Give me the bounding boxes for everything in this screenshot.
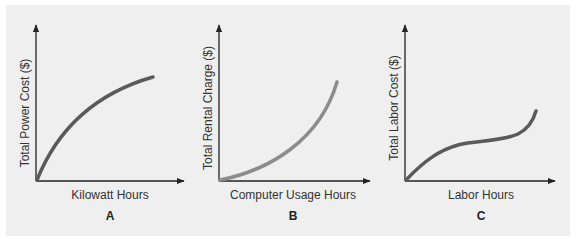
x-axis-label: Computer Usage Hours — [230, 188, 356, 202]
y-axis-label: Total Rental Charge ($) — [201, 46, 215, 170]
chart-c: Total Labor Cost ($) Labor Hours C — [387, 25, 555, 223]
x-axis-label: Labor Hours — [448, 188, 514, 202]
figure-charts: Total Power Cost ($) Kilowatt Hours A To… — [0, 0, 576, 242]
cost-curve — [37, 77, 153, 180]
panel-letter: C — [477, 209, 486, 223]
chart-b: Total Rental Charge ($) Computer Usage H… — [201, 25, 370, 223]
panel-letter: A — [106, 209, 115, 223]
x-axis-label: Kilowatt Hours — [71, 188, 148, 202]
y-axis-label: Total Labor Cost ($) — [387, 55, 401, 160]
chart-a: Total Power Cost ($) Kilowatt Hours A — [18, 25, 184, 223]
panel-letter: B — [289, 209, 298, 223]
cost-curve — [406, 111, 536, 180]
y-axis-label: Total Power Cost ($) — [18, 59, 32, 168]
cost-curve — [220, 82, 337, 180]
